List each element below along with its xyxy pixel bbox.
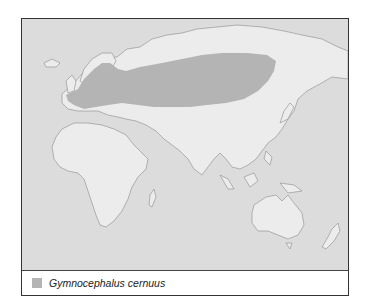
new-guinea xyxy=(280,183,302,193)
legend-label: Gymnocephalus cernuus xyxy=(49,277,165,289)
sumatra xyxy=(220,175,234,189)
iceland xyxy=(44,59,60,67)
tasmania xyxy=(286,243,292,249)
madagascar xyxy=(149,189,156,207)
map-figure: Gymnocephalus cernuus xyxy=(21,18,349,296)
distribution-map xyxy=(22,19,348,271)
australia-landmass xyxy=(252,195,304,239)
new-zealand xyxy=(322,223,340,249)
world-map-graphic xyxy=(22,19,348,270)
philippines xyxy=(264,151,272,165)
map-legend: Gymnocephalus cernuus xyxy=(22,271,348,295)
legend-swatch xyxy=(32,278,42,288)
africa-landmass xyxy=(52,123,148,227)
borneo xyxy=(244,173,258,187)
